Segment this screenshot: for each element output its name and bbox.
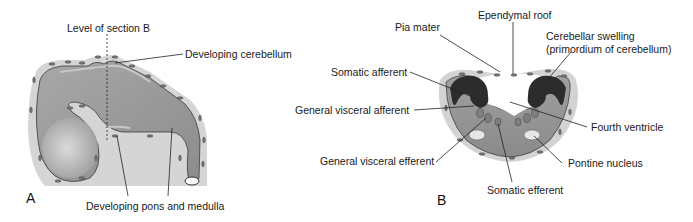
label-primordium-of-cerebellum: (primordium of cerebellum) — [546, 43, 671, 55]
label-developing-pons-medulla: Developing pons and medulla — [86, 200, 224, 212]
label-somatic-afferent: Somatic afferent — [331, 66, 407, 78]
label-cerebellar-swelling: Cerebellar swelling — [546, 30, 635, 42]
label-pontine-nucleus: Pontine nucleus — [568, 157, 643, 169]
brain-vesicle — [42, 118, 98, 178]
label-general-visceral-efferent: General visceral efferent — [320, 155, 434, 167]
panel-a-diagram — [28, 34, 207, 196]
pontine-nucleus-left — [469, 130, 485, 140]
label-level-of-section-b: Level of section B — [67, 22, 150, 34]
label-ependymal-roof: Ependymal roof — [478, 9, 552, 21]
label-pia-mater: Pia mater — [395, 21, 440, 33]
tube-opening — [185, 177, 199, 185]
label-general-visceral-afferent: General visceral afferent — [295, 104, 409, 116]
panel-letter-b: B — [437, 192, 446, 208]
label-somatic-efferent: Somatic efferent — [487, 184, 563, 196]
label-developing-cerebellum: Developing cerebellum — [185, 48, 292, 60]
label-fourth-ventricle: Fourth ventricle — [591, 121, 663, 133]
panel-letter-a: A — [26, 190, 35, 206]
pontine-nucleus-right — [524, 130, 540, 140]
